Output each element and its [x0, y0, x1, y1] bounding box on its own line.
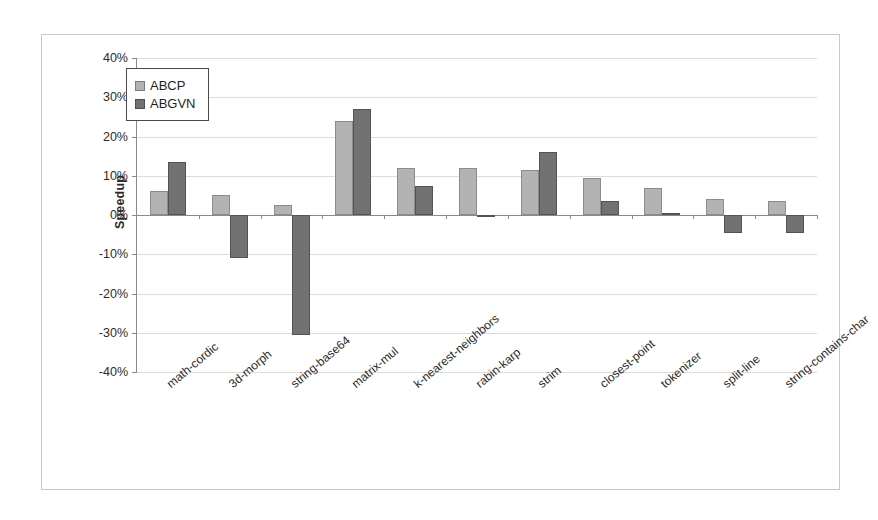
bar-group: [570, 58, 632, 372]
y-tick-label: 10%: [103, 169, 128, 183]
bar-abcp-rabin-karp: [459, 168, 477, 215]
x-tick-mark: [199, 215, 200, 219]
bar-abgvn-split-line: [724, 215, 742, 233]
x-tick-mark: [322, 215, 323, 219]
bar-abgvn-math-cordic: [168, 162, 186, 215]
chart-legend: ABCP ABGVN: [126, 68, 209, 121]
bar-abgvn-string-base64: [292, 215, 310, 335]
chart-figure: Speedup 40%30%20%10%0%-10%-20%-30%-40% m…: [41, 34, 840, 490]
bar-group: [261, 58, 323, 372]
bar-abgvn-strim: [539, 152, 557, 215]
y-tick-label: 0%: [110, 208, 128, 222]
y-tick-label: 20%: [103, 130, 128, 144]
bar-abcp-string-contains-char: [768, 201, 786, 215]
legend-label-abgvn: ABGVN: [150, 96, 196, 111]
bar-abgvn-3d-morph: [230, 215, 248, 258]
x-tick-mark: [693, 215, 694, 219]
bar-abcp-3d-morph: [212, 195, 230, 215]
legend-swatch-icon-abcp: [135, 81, 145, 91]
legend-swatch-icon-abgvn: [135, 99, 145, 109]
y-tick-label: -40%: [99, 365, 128, 379]
y-tick-label: -10%: [99, 247, 128, 261]
bar-group: [508, 58, 570, 372]
y-tick-label: -30%: [99, 326, 128, 340]
bar-abcp-split-line: [706, 199, 724, 215]
x-tick-mark: [446, 215, 447, 219]
bar-abgvn-string-contains-char: [786, 215, 804, 233]
bar-group: [632, 58, 694, 372]
x-tick-mark: [384, 215, 385, 219]
bar-abcp-k-nearest-neighbors: [397, 168, 415, 215]
x-tick-mark: [817, 215, 818, 219]
bar-group: [384, 58, 446, 372]
y-tick-label: 30%: [103, 90, 128, 104]
bar-abcp-matrix-mul: [335, 121, 353, 215]
bar-abgvn-closest-point: [601, 201, 619, 215]
y-tick-label: 40%: [103, 51, 128, 65]
bar-abgvn-rabin-karp: [477, 215, 495, 217]
bar-abcp-closest-point: [583, 178, 601, 215]
y-tick-label: -20%: [99, 287, 128, 301]
bar-group: [755, 58, 817, 372]
x-tick-mark: [508, 215, 509, 219]
y-axis-title: Speedup: [113, 142, 127, 262]
legend-label-abcp: ABCP: [150, 78, 185, 93]
x-tick-mark: [261, 215, 262, 219]
bar-group: [693, 58, 755, 372]
bar-group: [322, 58, 384, 372]
bar-abcp-strim: [521, 170, 539, 215]
x-tick-mark: [632, 215, 633, 219]
bar-abgvn-k-nearest-neighbors: [415, 186, 433, 215]
bar-abgvn-tokenizer: [662, 213, 680, 215]
plot-area: 40%30%20%10%0%-10%-20%-30%-40% math-cord…: [137, 58, 817, 372]
y-tick-mark: [132, 372, 137, 373]
legend-item-abcp: ABCP: [135, 78, 196, 93]
x-tick-mark: [570, 215, 571, 219]
legend-item-abgvn: ABGVN: [135, 96, 196, 111]
bar-abcp-math-cordic: [150, 191, 168, 215]
bar-abcp-tokenizer: [644, 188, 662, 215]
bar-abgvn-matrix-mul: [353, 109, 371, 215]
x-tick-mark: [755, 215, 756, 219]
bar-abcp-string-base64: [274, 205, 292, 215]
